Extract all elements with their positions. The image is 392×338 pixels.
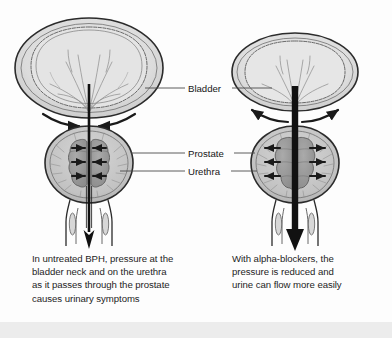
caption-alpha-blocker: With alpha-blockers, the pressure is red… — [232, 252, 382, 292]
label-urethra: Urethra — [188, 166, 220, 177]
label-prostate: Prostate — [188, 148, 224, 159]
caption-untreated-bph: In untreated BPH, pressure at the bladde… — [32, 252, 227, 305]
bph-diagram-figure: Bladder Prostate Urethra In untreated BP… — [0, 0, 392, 338]
bottom-band — [0, 322, 392, 338]
label-bladder: Bladder — [188, 83, 221, 94]
panel-right-treated — [232, 33, 358, 251]
panel-left-untreated — [15, 18, 163, 249]
